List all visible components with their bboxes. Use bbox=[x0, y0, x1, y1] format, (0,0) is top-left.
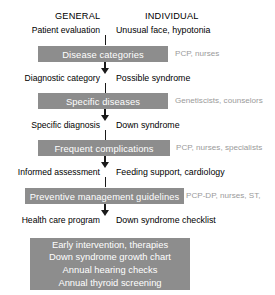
label-individual-unusual-face-hypotonia: Unusual face, hypotonia bbox=[116, 26, 210, 35]
label-individual-down-syndrome-checklist: Down syndrome checklist bbox=[116, 216, 216, 225]
outcome-panel-line: Annual hearing checks bbox=[63, 264, 158, 277]
column-heading-individual: INDIVIDUAL bbox=[145, 12, 199, 21]
connector-stem-1 bbox=[105, 83, 106, 93]
flow-chart: GENERAL INDIVIDUAL Patient evaluation Un… bbox=[0, 0, 275, 295]
label-general-informed-assessment: Informed assessment bbox=[18, 168, 100, 177]
process-bar-label: Disease categories bbox=[62, 49, 144, 60]
connector-arrow-head-1 bbox=[101, 68, 109, 74]
label-individual-possible-syndrome: Possible syndrome bbox=[116, 74, 190, 83]
label-individual-down-syndrome: Down syndrome bbox=[116, 121, 180, 130]
process-bar-preventive-management-guidelines[interactable]: Preventive management guidelines bbox=[25, 188, 184, 204]
label-individual-feeding-support-cardiology: Feeding support, cardiology bbox=[116, 168, 225, 177]
outcome-panel-line: Annual thyroid screening bbox=[58, 277, 161, 290]
actor-label-preventive-management-guidelines: PCP-DP, nurses, ST, bbox=[186, 192, 261, 200]
actor-label-disease-categories: PCP, nurses bbox=[175, 50, 219, 58]
outcome-panel[interactable]: Early intervention, therapies Down syndr… bbox=[30, 238, 190, 290]
connector-arrow-head-2 bbox=[101, 115, 109, 121]
label-general-patient-evaluation: Patient evaluation bbox=[32, 26, 100, 35]
outcome-panel-line: Early intervention, therapies bbox=[52, 239, 168, 252]
process-bar-label: Preventive management guidelines bbox=[30, 191, 180, 202]
process-bar-label: Frequent complications bbox=[54, 143, 153, 154]
process-bar-label: Specific diseases bbox=[66, 96, 140, 107]
connector-arrow-head-3 bbox=[101, 162, 109, 168]
label-general-specific-diagnosis: Specific diagnosis bbox=[31, 121, 100, 130]
connector-stem-3 bbox=[105, 177, 106, 187]
actor-label-frequent-complications: PCP, nurses, specialists bbox=[176, 144, 262, 152]
connector-stem-0 bbox=[105, 35, 106, 45]
connector-stem-2 bbox=[105, 130, 106, 140]
process-bar-specific-diseases[interactable]: Specific diseases bbox=[38, 93, 168, 109]
actor-label-specific-diseases: Genetiscists, counselors bbox=[175, 97, 263, 105]
label-general-diagnostic-category: Diagnostic category bbox=[25, 74, 100, 83]
process-bar-frequent-complications[interactable]: Frequent complications bbox=[38, 140, 170, 156]
outcome-panel-line: Down syndrome growth chart bbox=[49, 251, 171, 264]
label-general-health-care-program: Health care program bbox=[22, 216, 100, 225]
process-bar-disease-categories[interactable]: Disease categories bbox=[38, 46, 168, 62]
connector-arrow-head-4 bbox=[101, 210, 109, 216]
column-heading-general: GENERAL bbox=[55, 12, 100, 21]
